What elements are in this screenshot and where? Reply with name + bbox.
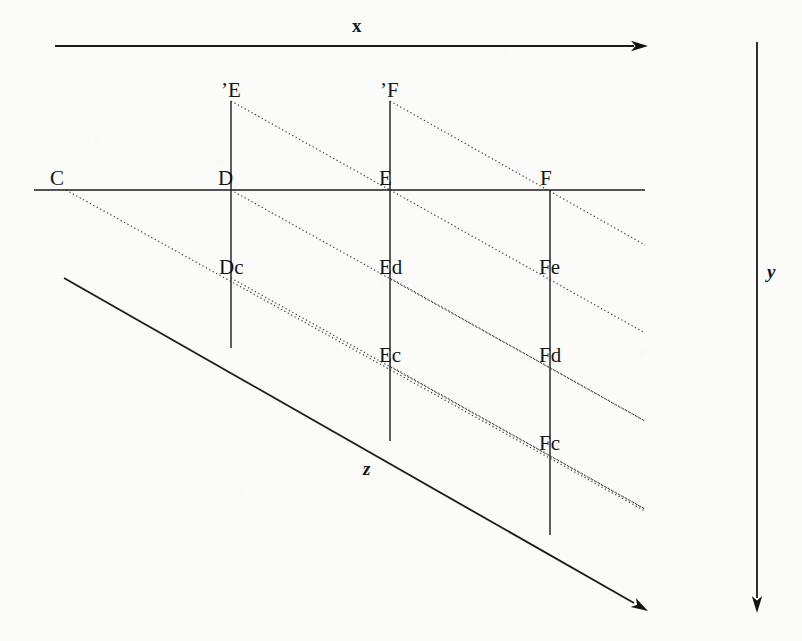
point-label-D: D bbox=[218, 166, 233, 190]
z-axis-arrowhead bbox=[631, 598, 648, 611]
point-label-Fc: Fc bbox=[539, 431, 560, 455]
x-axis-label: x bbox=[352, 15, 362, 36]
point-label-Eprime: ’E bbox=[221, 78, 241, 102]
dotted-line-Eprime-E bbox=[231, 101, 390, 190]
y-axis-label: y bbox=[765, 261, 776, 282]
axes-group bbox=[55, 41, 762, 613]
point-label-Fprime: ’F bbox=[380, 78, 399, 102]
point-label-Ec: Ec bbox=[379, 343, 401, 367]
point-label-Fe: Fe bbox=[539, 255, 560, 279]
axis-labels-group: x y z bbox=[352, 15, 776, 479]
dotted-line-E-Fe bbox=[390, 190, 645, 333]
point-label-C: C bbox=[50, 166, 64, 190]
z-axis-label: z bbox=[362, 458, 371, 479]
y-axis-arrowhead bbox=[752, 596, 762, 613]
axis-diagram-svg: x y z ’E ’F C D E F Dc Ed Fe Ec Fd Fc bbox=[0, 0, 802, 641]
point-label-Dc: Dc bbox=[219, 255, 244, 279]
point-label-Ed: Ed bbox=[379, 255, 403, 279]
point-label-E: E bbox=[379, 166, 392, 190]
diagram-canvas: x y z ’E ’F C D E F Dc Ed Fe Ec Fd Fc bbox=[0, 0, 802, 641]
point-labels-group: ’E ’F C D E F Dc Ed Fe Ec Fd Fc bbox=[50, 78, 562, 455]
dotted-line-Fprime-F bbox=[390, 101, 645, 245]
point-label-Fd: Fd bbox=[539, 343, 562, 367]
point-label-F: F bbox=[540, 166, 552, 190]
